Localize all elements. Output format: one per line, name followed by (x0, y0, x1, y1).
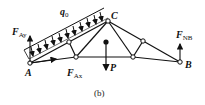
label-FAx: FAx (66, 67, 83, 80)
label-C: C (111, 10, 118, 21)
figure-caption: (b) (94, 88, 105, 98)
label-P: P (110, 62, 117, 73)
truss-diagram: FAy q0 C A FAx P FNB B (b) (0, 0, 205, 105)
label-q0: q0 (60, 6, 69, 19)
label-FAy: FAy (11, 26, 27, 39)
label-FNB: FNB (175, 29, 193, 42)
label-A: A (24, 67, 32, 78)
label-B: B (184, 59, 192, 70)
joint-C (106, 19, 110, 23)
joint-B (178, 60, 182, 64)
P-load-point (103, 39, 108, 44)
